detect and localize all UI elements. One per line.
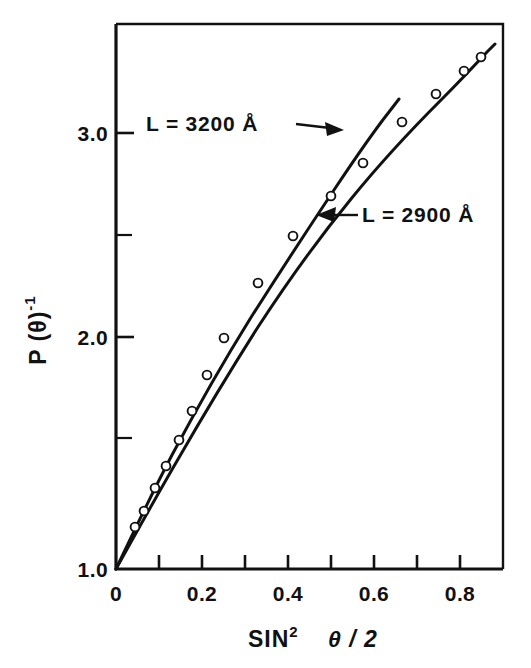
data-point — [140, 507, 149, 516]
annotation-l-2900-arrowhead — [316, 207, 336, 222]
x-tick-label-0: 0 — [110, 582, 122, 605]
x-tick-label-0.2: 0.2 — [187, 582, 217, 605]
annotation-l-2900-label: L = 2900 Å — [362, 203, 474, 226]
data-point — [359, 159, 368, 168]
x-axis-title-theta: θ / 2 — [328, 626, 378, 652]
y-tick-label-3.0: 3.0 — [78, 122, 108, 145]
x-tick-label-0.6: 0.6 — [359, 582, 389, 605]
curve-l-3200 — [116, 99, 399, 569]
data-point — [220, 334, 229, 343]
x-axis-title-base: SIN — [248, 626, 289, 652]
data-point — [175, 436, 184, 445]
y-axis-ticks — [116, 133, 134, 438]
data-point — [398, 118, 407, 127]
y-tick-label-2.0: 2.0 — [78, 326, 108, 349]
annotation-l-3200-leader — [296, 124, 330, 128]
svg-text:P (θ)-1: P (θ)-1 — [21, 295, 51, 364]
x-axis-title-tail — [299, 626, 306, 652]
data-point — [289, 232, 298, 241]
data-point — [188, 407, 197, 416]
annotation-l-3200-arrowhead — [325, 122, 344, 136]
data-point — [151, 484, 160, 493]
plot-axes-left-bottom — [116, 24, 503, 569]
data-point — [432, 90, 441, 99]
y-tick-label-1.0: 1.0 — [78, 558, 108, 581]
y-axis-title: P (θ)-1 — [21, 295, 51, 364]
chart-canvas: 3.0 2.0 1.0 0 0.2 0.4 0.6 0.8 SIN2 θ / 2 — [0, 0, 531, 668]
y-axis-title-base: P (θ) — [25, 311, 51, 365]
y-axis-title-exponent: -1 — [21, 295, 38, 310]
data-point — [327, 192, 336, 201]
data-point — [254, 279, 263, 288]
figure-container: 3.0 2.0 1.0 0 0.2 0.4 0.6 0.8 SIN2 θ / 2 — [0, 0, 531, 668]
data-point — [203, 371, 212, 380]
x-tick-label-0.8: 0.8 — [445, 582, 475, 605]
data-point — [460, 67, 469, 76]
annotation-l-3200: L = 3200 Å — [146, 112, 344, 136]
svg-text:SIN2: SIN2 — [248, 623, 306, 652]
plot-frame-top-right — [116, 24, 503, 569]
annotation-l-2900: L = 2900 Å — [316, 203, 474, 226]
data-point — [131, 523, 140, 532]
data-point — [477, 53, 486, 62]
annotation-l-3200-label: L = 3200 Å — [146, 112, 258, 135]
data-point — [162, 462, 171, 471]
x-axis-title: SIN2 θ / 2 — [248, 623, 378, 652]
x-axis-ticks — [159, 555, 460, 569]
x-axis-title-exponent: 2 — [289, 623, 298, 640]
x-tick-label-0.4: 0.4 — [273, 582, 303, 605]
